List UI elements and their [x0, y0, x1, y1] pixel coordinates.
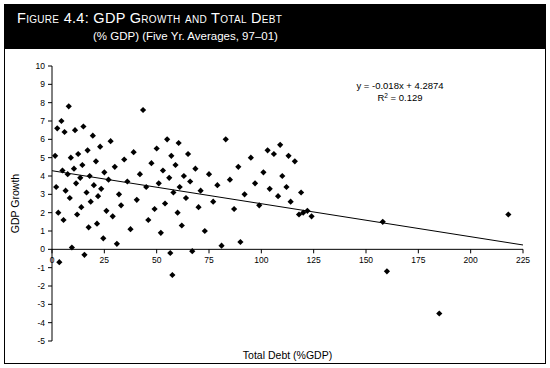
y-tick-label: -1	[37, 263, 45, 273]
data-point	[275, 193, 281, 199]
data-point	[277, 142, 283, 148]
y-tick-label: 1	[40, 226, 45, 236]
data-point	[110, 213, 116, 219]
data-point	[127, 226, 133, 232]
y-tick-label: 5	[40, 153, 45, 163]
data-point	[206, 171, 212, 177]
data-point	[183, 195, 189, 201]
data-point	[160, 167, 166, 173]
data-point	[384, 268, 390, 274]
data-point	[283, 184, 289, 190]
data-point	[154, 145, 160, 151]
x-tick-label: 100	[254, 255, 268, 265]
data-point	[164, 136, 170, 142]
data-point	[108, 138, 114, 144]
data-point	[267, 186, 273, 192]
data-point	[175, 210, 181, 216]
data-point	[56, 259, 62, 265]
x-tick-label: 50	[152, 255, 162, 265]
x-tick-label: 175	[411, 255, 425, 265]
data-point	[65, 171, 71, 177]
data-point	[195, 204, 201, 210]
x-axis-title: Total Debt (%GDP)	[243, 349, 332, 361]
data-point	[179, 222, 185, 228]
data-point	[131, 149, 137, 155]
data-point	[95, 193, 101, 199]
data-point	[52, 153, 58, 159]
data-point	[73, 180, 79, 186]
data-point	[81, 252, 87, 258]
data-point	[86, 224, 92, 230]
data-point	[78, 204, 84, 210]
y-tick-label: 8	[40, 98, 45, 108]
data-point	[74, 211, 80, 217]
data-point	[54, 125, 60, 131]
y-tick-label: 7	[40, 116, 45, 126]
x-tick-label: 75	[204, 255, 214, 265]
data-point	[60, 217, 66, 223]
data-point	[271, 151, 277, 157]
data-point	[210, 199, 216, 205]
data-point	[116, 191, 122, 197]
data-point	[79, 162, 85, 168]
y-tick-label: 9	[40, 79, 45, 89]
data-point	[168, 153, 174, 159]
y-tick-label: 10	[36, 61, 46, 71]
data-point	[172, 162, 178, 168]
data-point	[91, 182, 97, 188]
y-tick-label: -3	[37, 299, 45, 309]
data-point	[298, 189, 304, 195]
data-point	[198, 188, 204, 194]
data-point	[177, 184, 183, 190]
data-point	[66, 103, 72, 109]
data-point	[75, 151, 81, 157]
y-axis-title: GDP Growth	[9, 174, 21, 233]
figure-subtitle: (% GDP) (Five Yr. Averages, 97–01)	[93, 30, 278, 42]
data-point	[100, 235, 106, 241]
data-point	[248, 155, 254, 161]
data-point	[223, 136, 229, 142]
data-point	[436, 310, 442, 316]
data-point	[214, 182, 220, 188]
data-point	[279, 173, 285, 179]
x-tick-label: 150	[359, 255, 373, 265]
plot-area: -5-4-3-2-1012345678910025507510012515017…	[5, 49, 545, 363]
data-point	[167, 250, 173, 256]
y-tick-label: 4	[40, 171, 45, 181]
data-point	[176, 140, 182, 146]
data-point	[192, 166, 198, 172]
data-point	[63, 188, 69, 194]
data-point	[380, 219, 386, 225]
data-point	[61, 129, 67, 135]
data-point	[67, 195, 73, 201]
data-point	[231, 206, 237, 212]
data-point	[55, 210, 61, 216]
data-point	[87, 173, 93, 179]
y-tick-label: 0	[40, 244, 45, 254]
data-point	[93, 158, 99, 164]
data-point	[83, 189, 89, 195]
data-point	[71, 166, 77, 172]
x-tick-label: 225	[516, 255, 530, 265]
data-point	[151, 206, 157, 212]
scatter-chart: -5-4-3-2-1012345678910025507510012515017…	[5, 49, 545, 363]
data-point	[103, 208, 109, 214]
data-point	[162, 200, 168, 206]
data-point-group	[52, 103, 511, 316]
y-tick-label: -2	[37, 281, 45, 291]
x-tick-label: 200	[464, 255, 478, 265]
figure-container: Figure 4.4: GDP Growth and Total Debt (%…	[0, 0, 550, 368]
data-point	[88, 199, 94, 205]
r-squared-label: R2 = 0.129	[377, 92, 422, 104]
data-point	[112, 164, 118, 170]
data-point	[202, 228, 208, 234]
data-point	[158, 230, 164, 236]
data-point	[134, 197, 140, 203]
data-point	[241, 191, 247, 197]
data-point	[72, 127, 78, 133]
y-tick-label: 2	[40, 208, 45, 218]
regression-equation: y = -0.018x + 4.2874	[356, 80, 443, 91]
y-tick-label: 6	[40, 134, 45, 144]
data-point	[288, 199, 294, 205]
data-point	[90, 133, 96, 139]
